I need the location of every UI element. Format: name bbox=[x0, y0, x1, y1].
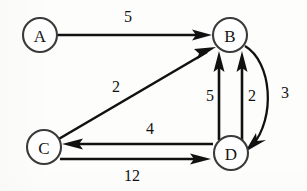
edge-weight-d-to-b-left: 5 bbox=[206, 87, 214, 104]
edge-weight-b-to-d-curve: 3 bbox=[281, 84, 289, 101]
edge-d-to-b-right bbox=[237, 51, 248, 140]
edge-weight-d-to-b-right: 2 bbox=[248, 87, 256, 104]
edge-weight-c-to-d: 12 bbox=[124, 167, 140, 184]
edge-c-to-d bbox=[60, 154, 211, 165]
edge-weight-d-to-c: 4 bbox=[146, 120, 154, 137]
edge-c-to-b bbox=[57, 47, 216, 140]
graph-figure: A B C D 5 2 5 2 3 4 12 bbox=[0, 0, 307, 191]
node-c-label: C bbox=[38, 139, 49, 158]
node-d-label: D bbox=[225, 145, 237, 164]
node-d[interactable]: D bbox=[214, 136, 248, 170]
node-c[interactable]: C bbox=[27, 130, 61, 164]
node-b-label: B bbox=[224, 27, 235, 46]
edge-c-to-b-line bbox=[57, 52, 207, 140]
edge-weight-a-to-b: 5 bbox=[124, 8, 132, 25]
node-a[interactable]: A bbox=[23, 18, 57, 52]
edge-d-to-c bbox=[62, 139, 213, 150]
graph-canvas: A B C D 5 2 5 2 3 4 12 bbox=[0, 0, 307, 191]
edge-d-to-b-left bbox=[214, 51, 225, 140]
edge-a-to-b bbox=[58, 30, 212, 41]
edge-weight-c-to-b: 2 bbox=[112, 78, 120, 95]
node-a-label: A bbox=[34, 27, 47, 46]
node-b[interactable]: B bbox=[213, 18, 247, 52]
